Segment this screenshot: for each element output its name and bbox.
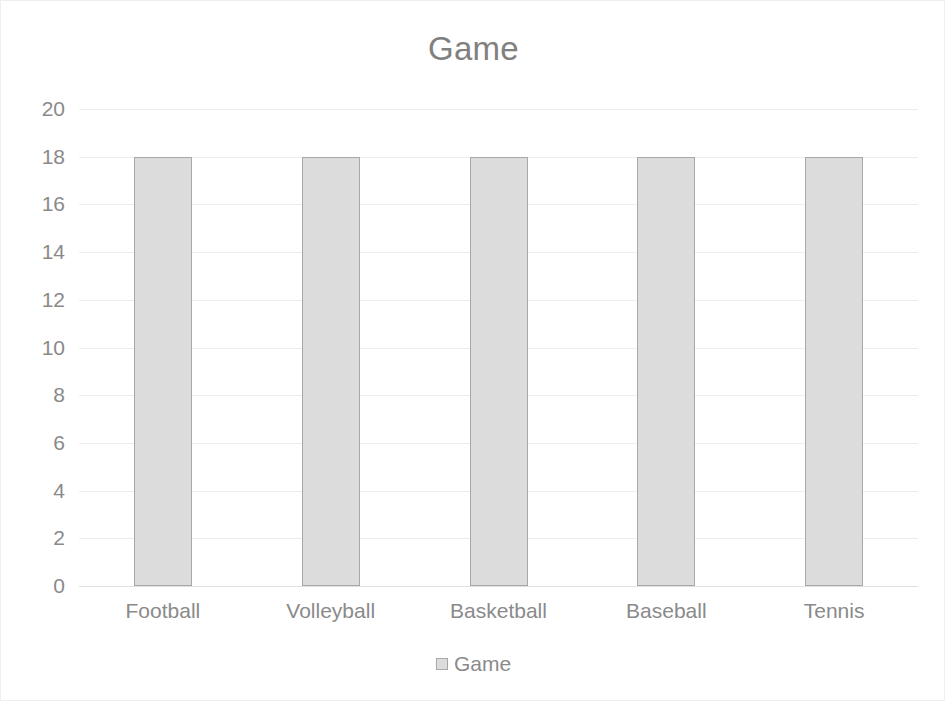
y-tick-label-2: 2 — [5, 527, 65, 548]
bar-baseball[interactable] — [637, 157, 695, 586]
x-tick-label-basketball: Basketball — [450, 597, 547, 625]
y-tick-label-16: 16 — [5, 193, 65, 214]
gridline-20 — [79, 109, 918, 110]
x-tick-label-baseball: Baseball — [626, 597, 707, 625]
chart-title: Game — [1, 29, 945, 69]
legend-swatch-game — [436, 658, 448, 670]
y-tick-label-10: 10 — [5, 337, 65, 358]
gridline-0 — [79, 586, 918, 587]
y-tick-label-20: 20 — [5, 98, 65, 119]
bar-basketball[interactable] — [470, 157, 528, 586]
x-tick-label-football: Football — [126, 597, 201, 625]
plot-area — [79, 109, 918, 586]
x-tick-label-tennis: Tennis — [804, 597, 865, 625]
chart-legend: Game — [1, 653, 945, 675]
bar-volleyball[interactable] — [302, 157, 360, 586]
y-tick-label-4: 4 — [5, 480, 65, 501]
y-tick-label-18: 18 — [5, 146, 65, 167]
y-tick-label-8: 8 — [5, 384, 65, 405]
x-axis: FootballVolleyballBasketballBaseballTenn… — [1, 597, 945, 631]
y-tick-label-6: 6 — [5, 432, 65, 453]
bar-football[interactable] — [134, 157, 192, 586]
chart-container: Game 20181614121086420 FootballVolleybal… — [0, 0, 945, 701]
x-tick-label-volleyball: Volleyball — [286, 597, 375, 625]
legend-label-game: Game — [454, 653, 511, 675]
y-tick-label-0: 0 — [5, 575, 65, 596]
y-tick-label-12: 12 — [5, 289, 65, 310]
y-tick-label-14: 14 — [5, 241, 65, 262]
bar-tennis[interactable] — [805, 157, 863, 586]
y-axis: 20181614121086420 — [1, 1, 79, 701]
